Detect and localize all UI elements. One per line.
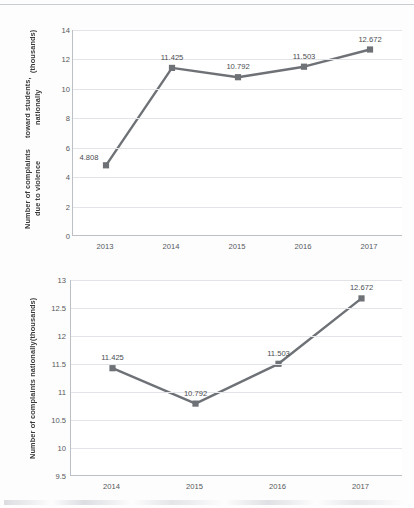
y-tick-label: 14 [62,26,70,35]
y-axis-title-line: Number of complaints nationally [28,341,38,459]
y-tick-label: 13 [58,276,66,285]
data-point-marker [192,401,198,407]
data-point-label: 10.792 [226,62,249,71]
page-top-rule [0,4,414,5]
gridline [71,448,402,449]
chart2-plot-area: 11.42510.79211.50312.672 [70,280,402,476]
x-tick-label: 2016 [295,242,312,251]
y-tick-label: 11.5 [52,360,66,369]
y-tick-label: 8 [66,114,70,123]
x-tick-label: 2013 [97,242,114,251]
gridline [71,308,402,309]
data-point-marker [109,365,115,371]
data-point-label: 11.425 [101,353,124,362]
gridline [73,30,402,31]
data-point-marker [367,46,373,52]
x-tick-label: 2017 [352,482,369,491]
data-point-label: 11.425 [161,53,184,62]
data-point-label: 12.672 [350,283,373,292]
gridline [73,207,402,208]
data-point-label: 11.503 [267,349,290,358]
data-point-label: 11.503 [293,52,316,61]
y-tick-label: 12.5 [51,304,66,313]
chart1-x-tick-labels: 20132014201520162017 [72,242,402,254]
gridline [73,177,402,178]
y-tick-label: 2 [66,202,70,211]
chart2-x-tick-labels: 2014201520162017 [70,482,402,494]
chart2-y-tick-labels: 9.51010.51111.51212.513 [40,280,66,476]
gridline [71,280,402,281]
y-tick-label: 6 [66,143,70,152]
chart2-series-line [71,280,403,476]
data-point-marker [235,74,241,80]
data-point-label: 12.672 [358,35,381,44]
chart1-plot-area: 4.80811.42510.79211.50312.672 [72,30,402,236]
y-axis-title-line: (thousands) [28,297,38,340]
gridline [71,392,402,393]
y-axis-title-line: toward students, nationally [23,73,43,141]
chart1-y-tick-labels: 02468101214 [44,30,70,236]
data-point-marker [103,162,109,168]
gridline [73,148,402,149]
gridline [73,118,402,119]
document-page: Number of complaints due to violencetowa… [0,0,414,508]
y-tick-label: 10 [62,84,70,93]
y-tick-label: 9.5 [55,472,66,481]
y-tick-label: 12 [58,332,66,341]
data-point-label: 10.792 [184,389,207,398]
y-tick-label: 12 [62,55,70,64]
x-tick-label: 2017 [361,242,378,251]
y-tick-label: 4 [66,173,70,182]
gridline [73,59,402,60]
x-tick-label: 2014 [163,242,180,251]
x-tick-label: 2016 [269,482,286,491]
series-polyline [113,298,362,403]
chart1-series-line [73,30,403,236]
y-axis-title-line: (thousands) [28,30,38,73]
y-axis-title-line: Number of complaints due to violence [23,141,43,236]
x-tick-label: 2014 [103,482,120,491]
chart-violence-toward-students: Number of complaints due to violencetowa… [0,12,414,260]
y-tick-label: 11 [58,388,66,397]
data-point-marker [301,64,307,70]
data-point-marker [169,65,175,71]
page-bottom-artifact [4,500,404,505]
gridline [71,364,402,365]
y-tick-label: 0 [66,232,70,241]
data-point-marker [358,295,364,301]
y-tick-label: 10.5 [51,416,66,425]
x-tick-label: 2015 [229,242,246,251]
gridline [71,420,402,421]
y-tick-label: 10 [58,444,66,453]
gridline [73,89,402,90]
data-point-label: 4.808 [79,153,98,162]
x-tick-label: 2015 [186,482,203,491]
gridline [71,336,402,337]
chart-complaints-nationally: Number of complaints nationally(thousand… [0,270,414,500]
